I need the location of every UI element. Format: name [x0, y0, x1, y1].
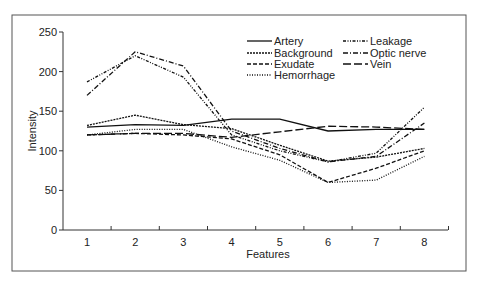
- legend: ArteryBackgroundExudateHemorrhageLeakage…: [247, 35, 426, 81]
- legend-label: Vein: [370, 58, 391, 70]
- series-leakage: [87, 56, 424, 162]
- y-tick-label: 50: [45, 184, 57, 196]
- x-tick-label: 2: [132, 236, 138, 248]
- x-tick-label: 1: [84, 236, 90, 248]
- line-chart: 05010015020025012345678 ArteryBackground…: [0, 0, 481, 282]
- x-tick-label: 3: [180, 236, 186, 248]
- y-tick-label: 250: [39, 26, 57, 38]
- y-tick-label: 100: [39, 145, 57, 157]
- data-series: [87, 52, 424, 183]
- series-vein: [87, 126, 424, 137]
- x-tick-label: 6: [325, 236, 331, 248]
- y-axis-label: Intensity: [26, 110, 38, 151]
- y-tick-label: 200: [39, 66, 57, 78]
- y-tick-label: 150: [39, 105, 57, 117]
- legend-label: Artery: [274, 35, 304, 47]
- x-tick-label: 5: [277, 236, 283, 248]
- legend-label: Leakage: [370, 35, 412, 47]
- x-tick-label: 8: [421, 236, 427, 248]
- x-tick-label: 4: [229, 236, 235, 248]
- legend-label: Hemorrhage: [274, 69, 335, 81]
- x-tick-label: 7: [373, 236, 379, 248]
- y-tick-label: 0: [51, 224, 57, 236]
- x-axis-label: Features: [246, 248, 290, 260]
